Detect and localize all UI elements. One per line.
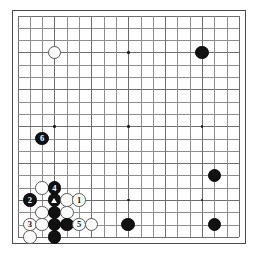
stone-black[interactable] <box>195 46 209 60</box>
stone-black-move-6[interactable]: 6 <box>35 132 49 146</box>
stone-white[interactable] <box>23 230 37 244</box>
stone-black[interactable] <box>48 230 62 244</box>
grid-line-vertical <box>239 16 240 237</box>
triangle-mark-icon <box>51 198 57 203</box>
stone-white[interactable] <box>48 46 62 60</box>
grid-line-horizontal <box>18 175 239 176</box>
move-number-label: 6 <box>40 134 44 143</box>
stone-black[interactable] <box>208 218 222 232</box>
move-number-label: 3 <box>28 220 32 229</box>
stone-black[interactable] <box>121 218 135 232</box>
grid-line-vertical <box>214 16 215 237</box>
stone-white-move-1[interactable]: 1 <box>72 193 86 207</box>
grid-line-vertical <box>227 16 228 237</box>
move-number-label: 2 <box>28 196 32 205</box>
move-number-label: 1 <box>77 196 81 205</box>
grid-line-horizontal <box>18 139 239 140</box>
grid-line-horizontal <box>18 151 239 152</box>
stone-white-move-5[interactable]: 5 <box>72 218 86 232</box>
go-diagram-root: 642135 <box>0 0 274 266</box>
grid-line-vertical <box>190 16 191 237</box>
star-point <box>127 51 130 54</box>
grid-line-vertical <box>177 16 178 237</box>
stone-black[interactable] <box>208 169 222 183</box>
stone-white[interactable] <box>35 218 49 232</box>
go-board[interactable]: 642135 <box>12 10 246 244</box>
grid-line-horizontal <box>18 163 239 164</box>
move-number-label: 4 <box>52 184 56 193</box>
grid-line-vertical <box>141 16 142 237</box>
stone-white[interactable] <box>85 218 99 232</box>
star-point <box>53 125 56 128</box>
move-number-label: 5 <box>77 220 81 229</box>
star-point <box>127 125 130 128</box>
grid-line-vertical <box>165 16 166 237</box>
stone-white[interactable] <box>35 181 49 195</box>
grid-line-vertical <box>153 16 154 237</box>
stone-black-move-2[interactable]: 2 <box>23 193 37 207</box>
